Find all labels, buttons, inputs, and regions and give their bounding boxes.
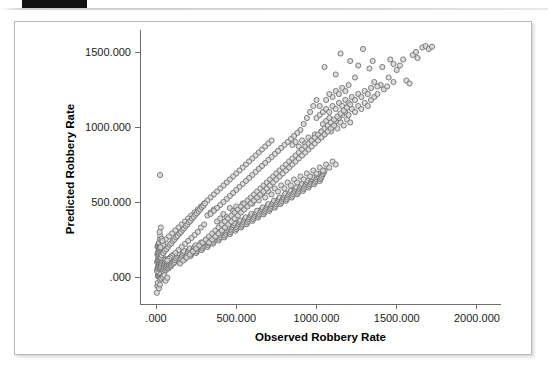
- data-point: [157, 172, 162, 177]
- data-point: [202, 201, 207, 206]
- data-point: [391, 79, 396, 84]
- data-point: [311, 103, 316, 108]
- data-point: [359, 94, 364, 99]
- data-point: [333, 72, 338, 77]
- data-point: [391, 61, 396, 66]
- data-point: [368, 85, 373, 90]
- data-point: [341, 123, 346, 128]
- data-point: [158, 225, 163, 230]
- data-point: [348, 120, 353, 125]
- y-tick-label: 1000.000: [85, 121, 131, 133]
- data-point: [384, 84, 389, 89]
- data-points-group: [154, 43, 434, 295]
- data-point: [370, 58, 375, 63]
- data-point: [317, 103, 322, 108]
- data-point: [367, 66, 372, 71]
- data-point: [348, 102, 353, 107]
- data-point: [375, 91, 380, 96]
- data-point: [208, 211, 213, 216]
- data-point: [160, 238, 165, 243]
- data-point: [413, 49, 418, 54]
- data-point: [352, 75, 357, 80]
- data-point: [202, 222, 207, 227]
- data-point: [314, 171, 319, 176]
- data-point: [269, 192, 274, 197]
- data-point: [327, 91, 332, 96]
- data-point: [314, 97, 319, 102]
- data-point: [307, 109, 312, 114]
- data-point: [359, 106, 364, 111]
- scatterplot-svg[interactable]: .000500.0001000.0001500.000.000500.00010…: [15, 22, 533, 356]
- y-tick-label: .000: [110, 271, 131, 283]
- data-point: [301, 121, 306, 126]
- data-point: [288, 183, 293, 188]
- data-point: [397, 63, 402, 68]
- data-point: [333, 106, 338, 111]
- data-point: [320, 168, 325, 173]
- data-point: [324, 97, 329, 102]
- data-point: [332, 123, 337, 128]
- data-point: [322, 64, 327, 69]
- data-point: [346, 112, 351, 117]
- x-axis-title: Observed Robbery Rate: [255, 331, 386, 343]
- x-tick-label: 500.000: [216, 312, 256, 324]
- data-point: [336, 91, 341, 96]
- scatterplot[interactable]: .000500.0001000.0001500.000.000500.00010…: [15, 22, 533, 356]
- data-point: [386, 75, 391, 80]
- data-point: [360, 46, 365, 51]
- data-point: [380, 64, 385, 69]
- data-point: [415, 55, 420, 60]
- x-tick-label: 1500.000: [374, 312, 420, 324]
- data-point: [165, 275, 170, 280]
- data-point: [157, 282, 162, 287]
- data-point: [301, 177, 306, 182]
- data-point: [348, 58, 353, 63]
- y-tick-label: 1500.000: [85, 46, 131, 58]
- data-point: [407, 81, 412, 86]
- data-point: [365, 103, 370, 108]
- x-tick-label: 2000.000: [454, 312, 500, 324]
- data-point: [263, 195, 268, 200]
- data-point: [327, 109, 332, 114]
- y-axis-title: Predicted Robbery Rate: [64, 104, 76, 234]
- data-point: [165, 258, 170, 263]
- data-point: [429, 44, 434, 49]
- x-tick-label: 1000.000: [294, 312, 340, 324]
- data-point: [282, 186, 287, 191]
- data-point: [333, 162, 338, 167]
- data-point: [365, 91, 370, 96]
- data-point: [352, 97, 357, 102]
- data-point: [401, 57, 406, 62]
- data-point: [338, 51, 343, 56]
- y-tick-label: 500.000: [91, 196, 131, 208]
- data-point: [343, 88, 348, 93]
- data-point: [275, 189, 280, 194]
- data-point: [307, 174, 312, 179]
- data-point: [269, 138, 274, 143]
- data-point: [356, 63, 361, 68]
- data-point: [352, 109, 357, 114]
- data-point: [375, 84, 380, 89]
- x-tick-label: .000: [145, 312, 166, 324]
- data-point: [304, 115, 309, 120]
- chart-frame: .000500.0001000.0001500.000.000500.00010…: [14, 21, 532, 355]
- data-point: [295, 180, 300, 185]
- data-point: [346, 82, 351, 87]
- header-divider: [0, 8, 548, 10]
- data-point: [327, 165, 332, 170]
